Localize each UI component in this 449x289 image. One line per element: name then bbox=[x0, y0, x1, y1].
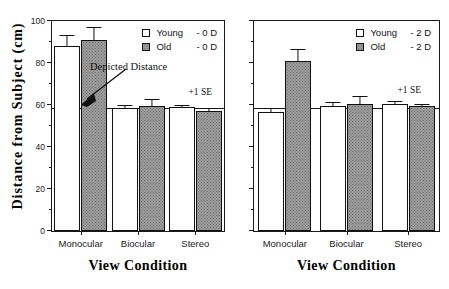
depicted-distance-arrow-icon bbox=[74, 65, 134, 111]
y-axis-tick bbox=[47, 188, 52, 189]
bar-group-biocular bbox=[320, 104, 373, 231]
bar-wrapper bbox=[320, 106, 346, 231]
legend-label-name: Old bbox=[370, 41, 404, 52]
error-bar bbox=[181, 106, 182, 107]
error-bar-cap bbox=[387, 101, 402, 102]
bar-wrapper bbox=[196, 111, 222, 231]
bar-group-stereo bbox=[169, 107, 222, 231]
bar-old-stereo bbox=[196, 111, 222, 231]
y-axis-tick-label: 20 bbox=[36, 184, 45, 194]
y-axis-tick bbox=[49, 83, 52, 84]
y-axis-tick-label: 60 bbox=[36, 100, 45, 110]
figure-container: Distance from Subject (cm) 020406080100M… bbox=[0, 0, 449, 289]
bar-young-biocular bbox=[320, 106, 346, 231]
bar-young-biocular bbox=[112, 108, 138, 231]
y-axis-tick bbox=[49, 209, 52, 210]
bar-wrapper bbox=[382, 104, 408, 231]
bar-old-monocular bbox=[285, 61, 311, 231]
error-bar bbox=[421, 105, 422, 106]
error-bar-cap bbox=[264, 108, 279, 109]
error-bar-cap bbox=[325, 102, 340, 103]
x-axis-tick-label-stereo: Stereo bbox=[181, 238, 209, 249]
legend-label-name: Young bbox=[156, 27, 190, 38]
legend-right-item-old: Old- 2 D bbox=[356, 41, 431, 52]
legend-swatch-old-icon bbox=[356, 43, 364, 51]
y-axis-tick bbox=[251, 209, 254, 210]
y-axis-tick-label: 100 bbox=[31, 16, 45, 26]
bar-group-stereo bbox=[382, 104, 435, 231]
error-bar-cap bbox=[291, 49, 306, 50]
error-bar bbox=[67, 36, 68, 47]
legend-label-name: Old bbox=[156, 41, 190, 52]
y-axis-tick bbox=[49, 125, 52, 126]
y-axis-tick bbox=[249, 188, 254, 189]
x-axis-tick bbox=[81, 231, 82, 235]
bar-wrapper bbox=[112, 108, 138, 231]
error-bar bbox=[94, 28, 95, 40]
x-axis-tick-label-monocular: Monocular bbox=[58, 238, 102, 249]
error-bar bbox=[271, 109, 272, 112]
y-axis-tick bbox=[251, 41, 254, 42]
bar-old-biocular bbox=[139, 106, 165, 231]
error-bar-cap bbox=[174, 105, 189, 106]
y-axis-tick bbox=[249, 20, 254, 21]
legend-swatch-old-icon bbox=[142, 43, 150, 51]
y-axis-tick bbox=[47, 104, 52, 105]
legend-label-condition: - 0 D bbox=[196, 27, 217, 38]
legend-label-condition: - 0 D bbox=[196, 41, 217, 52]
x-axis-tick bbox=[195, 231, 196, 235]
legend-label-name: Young bbox=[370, 27, 404, 38]
error-bar bbox=[208, 109, 209, 111]
y-axis-tick-label: 0 bbox=[40, 226, 45, 236]
bar-wrapper bbox=[169, 107, 195, 231]
bar-young-stereo bbox=[169, 107, 195, 231]
se-note-left: +1 SE bbox=[188, 87, 212, 97]
x-axis-tick bbox=[138, 231, 139, 235]
y-axis-tick-label: 80 bbox=[36, 58, 45, 68]
chart-panel-left: 020406080100MonocularBiocularStereo Youn… bbox=[51, 20, 225, 232]
bar-old-biocular bbox=[347, 104, 373, 231]
legend-left-item-young: Young- 0 D bbox=[142, 27, 217, 38]
x-axis-tick bbox=[285, 231, 286, 235]
y-axis-tick bbox=[47, 146, 52, 147]
y-axis-tick bbox=[47, 230, 52, 231]
bar-old-stereo bbox=[409, 106, 435, 231]
error-bar bbox=[298, 50, 299, 61]
bar-wrapper bbox=[409, 106, 435, 231]
legend-left: Young- 0 DOld- 0 D bbox=[142, 27, 217, 52]
y-axis-tick bbox=[49, 167, 52, 168]
y-axis-tick bbox=[249, 104, 254, 105]
bar-wrapper bbox=[258, 112, 284, 231]
error-bar-cap bbox=[352, 96, 367, 97]
y-axis-tick bbox=[47, 20, 52, 21]
bar-young-monocular bbox=[258, 112, 284, 231]
error-bar-cap bbox=[414, 104, 429, 105]
x-axis-tick bbox=[408, 231, 409, 235]
legend-label-condition: - 2 D bbox=[410, 41, 431, 52]
y-axis-tick bbox=[47, 62, 52, 63]
bar-group-monocular bbox=[258, 61, 311, 231]
bar-wrapper bbox=[139, 106, 165, 231]
bar-wrapper bbox=[285, 61, 311, 231]
bar-group-biocular bbox=[112, 106, 165, 231]
x-axis-tick-label-monocular: Monocular bbox=[263, 238, 307, 249]
error-bar bbox=[394, 102, 395, 104]
legend-label-condition: - 2 D bbox=[410, 27, 431, 38]
legend-swatch-young-icon bbox=[142, 29, 150, 37]
bar-young-stereo bbox=[382, 104, 408, 231]
error-bar bbox=[151, 100, 152, 106]
error-bar bbox=[359, 97, 360, 104]
x-axis-title-left: View Condition bbox=[52, 258, 224, 274]
y-axis-tick bbox=[251, 167, 254, 168]
error-bar-cap bbox=[87, 27, 102, 28]
y-axis-tick bbox=[251, 83, 254, 84]
y-axis-tick-label: 40 bbox=[36, 142, 45, 152]
plot-area-left: 020406080100MonocularBiocularStereo bbox=[52, 21, 224, 231]
se-note-right: +1 SE bbox=[397, 85, 421, 95]
y-axis-tick bbox=[249, 62, 254, 63]
bar-wrapper bbox=[347, 104, 373, 231]
y-axis-tick bbox=[49, 41, 52, 42]
legend-right-item-young: Young- 2 D bbox=[356, 27, 431, 38]
error-bar bbox=[332, 103, 333, 106]
plot-area-right: MonocularBiocularStereo bbox=[254, 21, 439, 231]
